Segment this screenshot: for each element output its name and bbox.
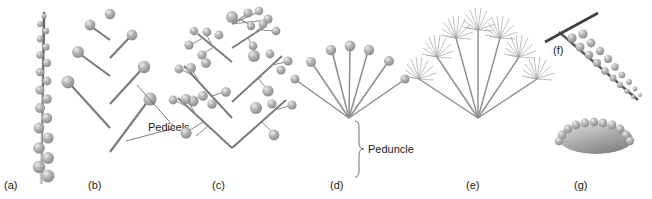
panel-label-e: (e)	[466, 179, 479, 191]
panel-label-f: (f)	[553, 44, 563, 56]
inflorescence-figure: (a) Pedicels (b)	[0, 0, 652, 199]
figure-background	[0, 0, 652, 199]
panel-label-d: (d)	[330, 179, 343, 191]
panel-label-c: (c)	[212, 179, 225, 191]
panel-label-g: (g)	[574, 179, 587, 191]
panel-label-b: (b)	[88, 179, 101, 191]
inflorescence-diagram-svg: (a) Pedicels (b)	[0, 0, 652, 199]
peduncle-annotation-label: Peduncle	[368, 143, 414, 155]
panel-label-a: (a)	[4, 179, 17, 191]
